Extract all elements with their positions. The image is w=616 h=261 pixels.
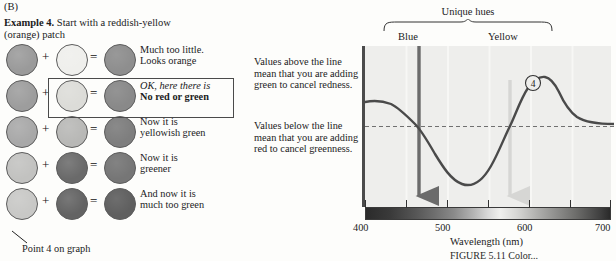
x-tick <box>406 200 407 208</box>
mixing-row: + = Now it is greener <box>0 150 250 186</box>
plus-operator: + <box>42 157 49 173</box>
equals-operator: = <box>90 121 97 137</box>
spectrum-bar <box>365 207 611 220</box>
result-circle <box>104 188 136 220</box>
patch-circle <box>6 116 38 148</box>
x-tick <box>570 200 571 208</box>
mixing-row: + = Much too little. Looks orange <box>0 42 250 78</box>
x-tick <box>488 200 489 208</box>
row-text-line1: Much too little. <box>140 44 204 55</box>
mixing-row-highlighted: + = OK, here there is No red or green <box>0 78 250 114</box>
row-text-line1: Now it is <box>140 152 178 163</box>
patch-circle <box>6 188 38 220</box>
plot-area: 4 <box>362 46 611 207</box>
x-tick <box>610 200 611 208</box>
point4-leader-line <box>10 230 28 244</box>
equals-operator: = <box>90 157 97 173</box>
row-text-line2: No red or green <box>140 91 210 102</box>
hue-label-blue: Blue <box>398 31 418 42</box>
equals-operator: = <box>90 85 97 101</box>
x-tick <box>365 200 366 208</box>
patch-circle <box>6 44 38 76</box>
row-description: Now it is greener <box>140 152 178 175</box>
patch-circle <box>6 80 38 112</box>
x-tick <box>529 200 530 208</box>
row-description: OK, here there is No red or green <box>140 80 210 103</box>
row-text-line2: greener <box>140 163 178 174</box>
mixing-demo-panel: (B) Example 4. Start with a reddish-yell… <box>0 0 250 258</box>
x-tick-label: 500 <box>435 222 450 233</box>
unique-hues-label: Unique hues <box>388 6 548 17</box>
row-text-line1: Now it is <box>140 116 205 127</box>
plus-operator: + <box>42 121 49 137</box>
point-marker-4-label: 4 <box>531 79 536 89</box>
figure-caption: FIGURE 5.11 Color... <box>450 250 538 261</box>
row-text-line2: yellowish green <box>140 127 205 138</box>
added-light-circle <box>56 152 88 184</box>
result-circle <box>104 80 136 112</box>
row-description: Now it is yellowish green <box>140 116 205 139</box>
row-description: Much too little. Looks orange <box>140 44 204 67</box>
mixing-rows: + = Much too little. Looks orange + = OK… <box>0 42 250 222</box>
result-circle <box>104 152 136 184</box>
result-circle <box>104 116 136 148</box>
row-text-line1-italic: OK, here there is <box>140 80 210 91</box>
added-light-circle <box>56 44 88 76</box>
annotation-below-line: Values below the line mean that you are … <box>254 120 362 155</box>
added-light-circle <box>56 80 88 112</box>
equals-operator: = <box>90 193 97 209</box>
mixing-row: + = And now it is much too green <box>0 186 250 222</box>
row-text-line1: OK, here there is <box>140 80 210 91</box>
x-tick-label: 400 <box>353 222 368 233</box>
plus-operator: + <box>42 49 49 65</box>
plus-operator: + <box>42 193 49 209</box>
annotation-above-line: Values above the line mean that you are … <box>254 56 362 91</box>
panel-letter: (B) <box>4 1 18 12</box>
equals-operator: = <box>90 49 97 65</box>
plot-svg: 4 <box>365 46 614 207</box>
hue-label-yellow: Yellow <box>488 31 518 42</box>
example-title: Example 4. <box>4 17 54 28</box>
row-text-line2: much too green <box>140 199 204 210</box>
patch-circle <box>6 152 38 184</box>
x-tick-label: 700 <box>595 222 610 233</box>
added-light-circle <box>56 188 88 220</box>
row-text-line2-bold: No red or green <box>140 91 209 102</box>
chromatic-response-chart: Values above the line mean that you are … <box>250 0 616 258</box>
x-tick-label: 600 <box>517 222 532 233</box>
plus-operator: + <box>42 85 49 101</box>
result-circle <box>104 44 136 76</box>
mixing-row: + = Now it is yellowish green <box>0 114 250 150</box>
row-text-line1: And now it is <box>140 188 204 199</box>
example-heading: Example 4. Start with a reddish-yellow (… <box>4 17 174 40</box>
point-marker-4: 4 <box>526 76 541 91</box>
point4-label: Point 4 on graph <box>22 243 90 254</box>
x-axis-title: Wavelength (nm) <box>362 236 611 247</box>
added-light-circle <box>56 116 88 148</box>
row-description: And now it is much too green <box>140 188 204 211</box>
x-tick <box>447 200 448 208</box>
row-text-line2: Looks orange <box>140 55 204 66</box>
